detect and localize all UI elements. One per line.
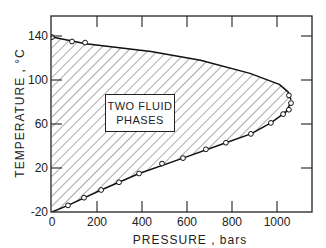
data-point-marker: [281, 112, 286, 117]
data-point-marker: [287, 107, 292, 112]
y-tick-label: 140: [18, 30, 48, 42]
x-tick-label: 1000: [257, 216, 297, 228]
annotation-line-2: PHASES: [106, 113, 174, 127]
data-point-marker: [160, 161, 165, 166]
data-point-marker: [83, 40, 88, 45]
x-tick-label: 800: [212, 216, 252, 228]
data-point-marker: [289, 101, 294, 106]
annotation-line-1: TWO FLUID: [106, 99, 174, 113]
two-phase-annotation-box: TWO FLUID PHASES: [105, 94, 175, 132]
data-point-marker: [66, 203, 71, 208]
data-point-marker: [70, 39, 75, 44]
data-point-marker: [99, 188, 104, 193]
y-axis-label: TEMPERATURE , °C: [13, 43, 27, 183]
data-point-marker: [181, 156, 186, 161]
data-point-marker: [269, 121, 274, 126]
x-tick-label: 200: [77, 216, 117, 228]
data-point-marker: [82, 195, 87, 200]
data-point-marker: [249, 132, 254, 137]
x-tick-label: 400: [122, 216, 162, 228]
data-point-marker: [117, 180, 122, 185]
data-point-marker: [137, 171, 142, 176]
x-axis-label: PRESSURE , bars: [110, 233, 270, 247]
x-tick-label: 0: [32, 216, 72, 228]
x-tick-label: 600: [167, 216, 207, 228]
data-point-marker: [224, 140, 229, 145]
data-point-marker: [50, 35, 55, 40]
data-point-marker: [204, 147, 209, 152]
data-point-marker: [287, 93, 292, 98]
